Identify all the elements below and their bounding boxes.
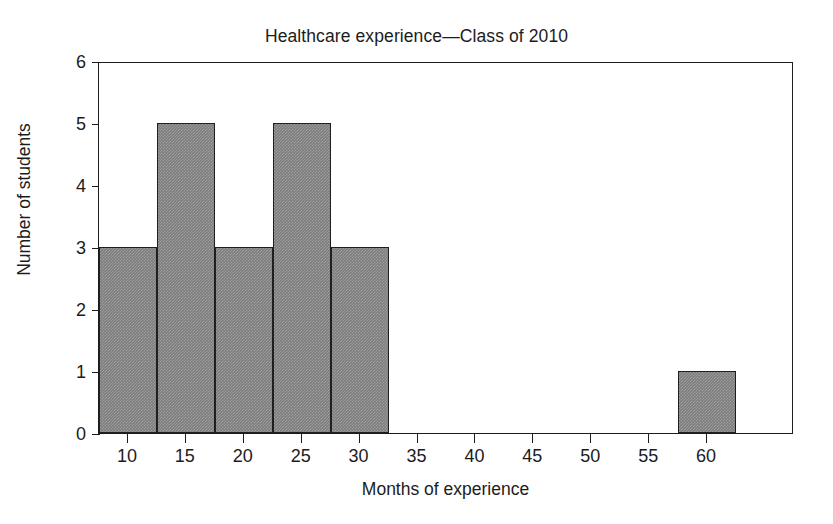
x-tick-label: 40 xyxy=(444,446,504,466)
x-tick-mark xyxy=(474,434,475,443)
x-tick-label: 20 xyxy=(213,446,273,466)
x-tick-mark xyxy=(590,434,591,443)
y-tick-label: 0 xyxy=(60,425,86,443)
x-tick-label: 60 xyxy=(676,446,736,466)
y-axis-label: Number of students xyxy=(14,70,35,330)
histogram-bar xyxy=(99,247,157,433)
histogram-bar xyxy=(331,247,389,433)
histogram-bar xyxy=(215,247,273,433)
x-tick-mark xyxy=(127,434,128,443)
bars-layer xyxy=(99,63,792,433)
x-tick-mark xyxy=(185,434,186,443)
plot-area xyxy=(98,62,793,434)
x-tick-mark xyxy=(417,434,418,443)
x-axis-label: Months of experience xyxy=(98,479,793,500)
histogram-bar xyxy=(273,123,331,433)
histogram-bar xyxy=(157,123,215,433)
x-tick-mark xyxy=(243,434,244,443)
x-tick-mark xyxy=(532,434,533,443)
y-tick-label: 2 xyxy=(60,301,86,319)
x-tick-label: 45 xyxy=(502,446,562,466)
chart-title: Healthcare experience—Class of 2010 xyxy=(0,26,833,47)
y-tick-label: 3 xyxy=(60,239,86,257)
x-tick-label: 35 xyxy=(387,446,447,466)
y-tick-label: 6 xyxy=(60,53,86,71)
x-tick-mark xyxy=(706,434,707,443)
x-tick-mark xyxy=(359,434,360,443)
y-tick-label: 1 xyxy=(60,363,86,381)
histogram-figure: Healthcare experience—Class of 2010 Numb… xyxy=(0,0,833,524)
y-tick-label: 5 xyxy=(60,115,86,133)
y-axis-tick-labels: 0123456 xyxy=(38,0,86,524)
x-tick-label: 25 xyxy=(271,446,331,466)
x-tick-mark xyxy=(648,434,649,443)
x-tick-label: 55 xyxy=(618,446,678,466)
y-tick-mark xyxy=(92,434,100,435)
x-tick-label: 15 xyxy=(155,446,215,466)
x-tick-label: 10 xyxy=(97,446,157,466)
histogram-bar xyxy=(678,371,736,433)
x-tick-label: 30 xyxy=(329,446,389,466)
x-tick-label: 50 xyxy=(560,446,620,466)
y-tick-label: 4 xyxy=(60,177,86,195)
x-tick-mark xyxy=(301,434,302,443)
